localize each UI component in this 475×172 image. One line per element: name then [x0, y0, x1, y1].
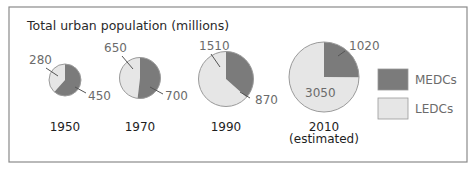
legend-swatch-medcs	[378, 69, 408, 90]
legend-label-ledcs: LEDCs	[415, 102, 453, 116]
year-label: 1970	[125, 120, 156, 134]
chart-title: Total urban population (millions)	[26, 18, 229, 33]
data-label-ledcs: 280	[29, 53, 52, 67]
year-sublabel: (estimated)	[289, 132, 359, 146]
urban-population-chart: Total urban population (millions) 280450…	[0, 0, 475, 172]
legend-label-medcs: MEDCs	[415, 73, 457, 87]
year-label: 1990	[211, 120, 242, 134]
data-label-ledcs: 650	[104, 41, 127, 55]
data-label-ledcs: 1510	[199, 39, 230, 53]
data-label-ledcs: 3050	[305, 86, 336, 100]
year-label: 1950	[50, 120, 81, 134]
data-label-medcs: 870	[255, 93, 278, 107]
data-label-medcs: 700	[165, 89, 188, 103]
data-label-medcs: 450	[88, 89, 111, 103]
legend-swatch-ledcs	[378, 98, 408, 119]
data-label-medcs: 1020	[349, 39, 380, 53]
